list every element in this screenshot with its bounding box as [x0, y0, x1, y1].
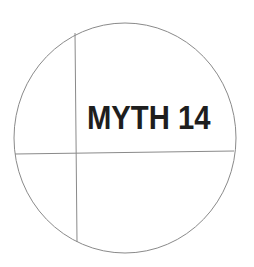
outer-circle — [14, 23, 236, 253]
vertical-divider-line — [75, 33, 77, 242]
myth-label: MYTH 14 — [87, 99, 210, 135]
horizontal-divider-line — [15, 151, 234, 154]
